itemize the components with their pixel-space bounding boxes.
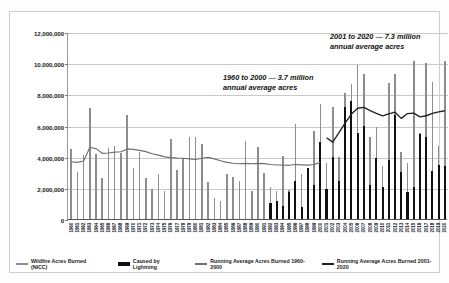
x-axis-tick-label: 1985	[224, 223, 229, 232]
legend-label-lightning: Caused by Lightning	[133, 258, 181, 270]
x-axis-tick-label: 2010	[380, 223, 385, 232]
gray-line-swatch-icon	[195, 263, 207, 264]
chart-legend: Wildfire Acres Burned (NICC) Caused by L…	[16, 258, 434, 270]
x-axis-tick-label: 2018	[430, 223, 435, 232]
y-axis-tick-mark	[65, 220, 68, 221]
x-axis-tick-label: 1996	[293, 223, 298, 232]
x-axis-tick-label: 1972	[143, 223, 148, 232]
x-axis-tick-label: 1973	[150, 223, 155, 232]
y-axis-tick-label: 8,000,000	[37, 92, 64, 99]
y-axis-tick-label: 6,000,000	[37, 123, 64, 130]
x-axis-tick-label: 1992	[268, 223, 273, 232]
x-axis-tick-label: 1976	[168, 223, 173, 232]
y-axis-tick-label: 10,000,000	[34, 61, 64, 68]
y-axis-tick-label: 2,000,000	[37, 185, 64, 192]
x-axis-tick-label: 2020	[442, 223, 447, 232]
x-axis-tick-label: 1978	[181, 223, 186, 232]
x-axis-tick-label: 1968	[118, 223, 123, 232]
x-axis-tick-label: 1979	[187, 223, 192, 232]
x-axis-tick-label: 1981	[199, 223, 204, 232]
legend-label-running-avg-1960: Running Average Acres Burned 1960-2000	[210, 258, 307, 270]
x-axis-tick-label: 1977	[175, 223, 180, 232]
x-axis-tick-label: 1993	[274, 223, 279, 232]
legend-label-wildfire-acres: Wildfire Acres Burned (NICC)	[31, 258, 98, 270]
black-line-swatch-icon	[322, 263, 334, 265]
x-axis-tick-label: 1998	[305, 223, 310, 232]
x-axis-tick-label: 1975	[162, 223, 167, 232]
x-axis-tick-label: 2019	[436, 223, 441, 232]
legend-item-wildfire-acres: Wildfire Acres Burned (NICC)	[16, 258, 98, 270]
x-axis-tick-label: 1960	[69, 223, 74, 232]
legend-item-lightning: Caused by Lightning	[118, 258, 181, 270]
x-axis-tick-label: 1970	[131, 223, 136, 232]
running-average-line-2001-2020	[327, 107, 445, 142]
x-axis-tick-label: 1974	[156, 223, 161, 232]
x-axis-tick-label: 1988	[243, 223, 248, 232]
x-axis-tick-label: 1994	[280, 223, 285, 232]
x-axis-tick-label: 1991	[262, 223, 267, 232]
x-axis-tick-label: 2005	[349, 223, 354, 232]
x-axis-tick-label: 2006	[355, 223, 360, 232]
x-axis-tick-label: 2016	[417, 223, 422, 232]
x-axis-tick-label: 2012	[393, 223, 398, 232]
x-axis-tick-label: 2000	[318, 223, 323, 232]
x-axis-tick-label: 1987	[237, 223, 242, 232]
x-axis-tick-label: 1999	[312, 223, 317, 232]
x-axis-tick-label: 1965	[100, 223, 105, 232]
x-axis-tick-label: 1989	[249, 223, 254, 232]
x-axis-tick-label: 1966	[106, 223, 111, 232]
x-axis-tick-label: 1986	[231, 223, 236, 232]
x-axis-tick-label: 2011	[386, 223, 391, 232]
chart-screenshot: 02,000,0004,000,0006,000,0008,000,00010,…	[0, 0, 449, 283]
x-axis-tick-label: 2015	[411, 223, 416, 232]
legend-label-running-avg-2001: Running Average Acres Burned 2001-2020	[337, 258, 434, 270]
x-axis-tick-label: 1963	[87, 223, 92, 232]
x-axis-tick-label: 1983	[212, 223, 217, 232]
y-axis-tick-label: 12,000,000	[34, 30, 64, 37]
x-axis-tick-label: 2014	[405, 223, 410, 232]
x-axis-tick-label: 1995	[287, 223, 292, 232]
plot-area: 02,000,0004,000,0006,000,0008,000,00010,…	[67, 33, 447, 220]
x-axis-tick-label: 1961	[75, 223, 80, 232]
x-axis-tick-label: 2004	[343, 223, 348, 232]
x-axis-tick-label: 1971	[137, 223, 142, 232]
x-axis-tick-label: 1969	[125, 223, 130, 232]
x-axis-tick-label: 1980	[193, 223, 198, 232]
x-axis-tick-label: 2003	[336, 223, 341, 232]
black-bar-swatch-icon	[118, 262, 130, 266]
x-axis-tick-label: 2008	[368, 223, 373, 232]
x-axis-tick-label: 1990	[255, 223, 260, 232]
gray-bar-swatch-icon	[16, 263, 28, 265]
chart-frame: 02,000,0004,000,0006,000,0008,000,00010,…	[9, 11, 440, 273]
x-axis-tick-label: 2007	[361, 223, 366, 232]
y-axis-tick-label: 4,000,000	[37, 154, 64, 161]
x-axis-tick-label: 2001	[324, 223, 329, 232]
x-axis-tick-label: 2017	[424, 223, 429, 232]
line-series-overlay	[68, 33, 448, 220]
x-axis-tick-label: 1997	[299, 223, 304, 232]
x-axis-tick-label: 1982	[206, 223, 211, 232]
running-average-line-1960-2000	[71, 148, 320, 166]
x-axis-tick-label: 2009	[374, 223, 379, 232]
x-axis-tick-label: 1964	[94, 223, 99, 232]
x-axis-tick-label: 1984	[218, 223, 223, 232]
legend-item-running-avg-1960: Running Average Acres Burned 1960-2000	[195, 258, 307, 270]
legend-item-running-avg-2001: Running Average Acres Burned 2001-2020	[322, 258, 434, 270]
x-axis-tick-label: 2002	[330, 223, 335, 232]
x-axis-tick-label: 1967	[112, 223, 117, 232]
x-axis-tick-label: 2013	[399, 223, 404, 232]
y-axis-tick-label: 0	[61, 217, 64, 224]
x-axis-tick-label: 1962	[81, 223, 86, 232]
